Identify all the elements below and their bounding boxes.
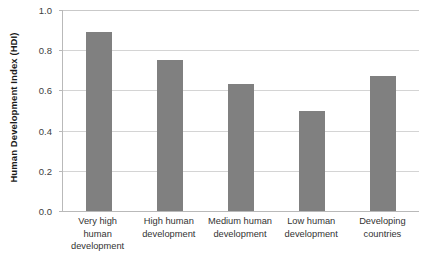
x-axis-label: Developing countries	[347, 215, 418, 253]
y-axis-tickmark	[59, 211, 63, 212]
bar-chart: Human Development Index (HDI) 1.00.80.60…	[0, 0, 432, 275]
bar-slot	[277, 10, 348, 211]
bar	[228, 84, 254, 211]
y-axis-title: Human Development Index (HDI)	[0, 0, 26, 215]
x-axis-category-labels: Very high human developmentHigh human de…	[62, 215, 418, 253]
bar-slot	[63, 10, 134, 211]
plot-area	[62, 10, 419, 212]
y-tick-label: 0.8	[39, 45, 52, 56]
bar	[299, 111, 325, 212]
y-tick-label: 1.0	[39, 5, 52, 16]
bar-slot	[134, 10, 205, 211]
x-axis-label: Very high human development	[62, 215, 133, 253]
bar	[370, 76, 396, 211]
x-axis-label: High human development	[133, 215, 204, 253]
bar-slot	[348, 10, 419, 211]
x-axis-label: Low human development	[276, 215, 347, 253]
y-tick-label: 0.6	[39, 85, 52, 96]
y-axis-title-text: Human Development Index (HDI)	[8, 32, 19, 182]
y-axis-tick-labels: 1.00.80.60.40.20.0	[26, 4, 56, 217]
y-tick-label: 0.0	[39, 206, 52, 217]
y-tick-label: 0.4	[39, 125, 52, 136]
bar-slot	[205, 10, 276, 211]
y-tick-label: 0.2	[39, 165, 52, 176]
bars-layer	[63, 10, 419, 211]
bar	[157, 60, 183, 211]
x-axis-label: Medium human development	[204, 215, 275, 253]
bar	[86, 32, 112, 211]
